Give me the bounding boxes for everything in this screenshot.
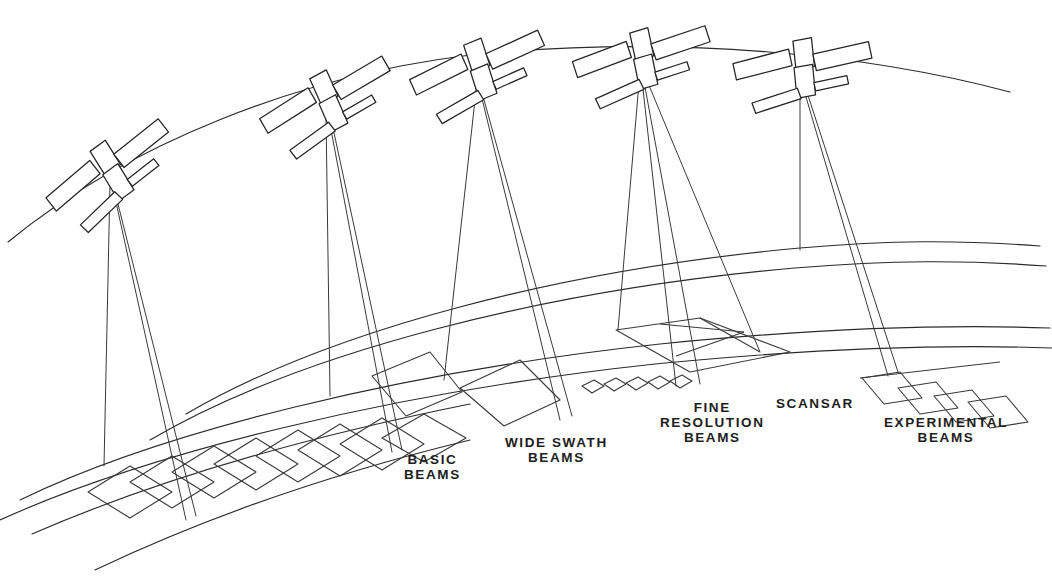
beam-lines-satellite-2 — [326, 114, 402, 452]
satellite-1 — [34, 115, 192, 242]
satellite-3 — [405, 27, 555, 127]
satellite-4 — [570, 23, 714, 110]
label-experimental-beams: EXPERIMENTAL BEAMS — [884, 415, 1008, 445]
label-wide-swath-beams: WIDE SWATH BEAMS — [505, 435, 608, 465]
label-fine-resolution-beams: FINE RESOLUTION BEAMS — [660, 400, 765, 445]
beam-lines-satellite-3 — [444, 82, 572, 420]
footprint-wide-swath-beams — [372, 352, 560, 426]
label-scansar: SCANSAR — [776, 396, 854, 411]
satellite-2 — [252, 53, 407, 166]
earth-surface-arcs — [0, 242, 1052, 570]
label-basic-beams: BASIC BEAMS — [404, 452, 461, 482]
diagram-canvas: BASIC BEAMS WIDE SWATH BEAMS FINE RESOLU… — [0, 0, 1052, 579]
beam-lines-satellite-4 — [618, 71, 760, 386]
footprint-scansar — [616, 318, 790, 372]
satellite-beam-diagram — [0, 0, 1052, 579]
satellite-5 — [731, 35, 872, 117]
